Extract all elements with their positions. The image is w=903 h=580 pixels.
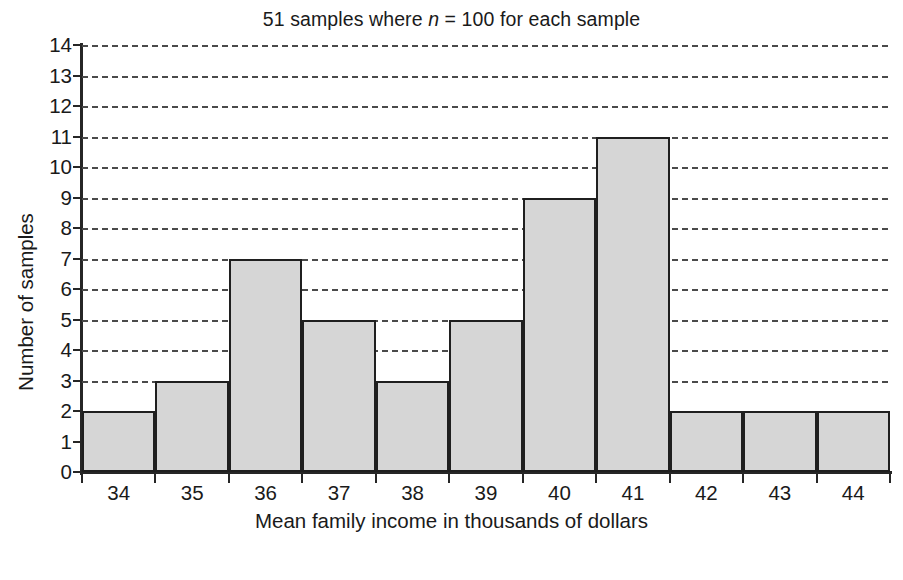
bar-38 xyxy=(376,381,449,473)
x-tick-2 xyxy=(228,473,230,483)
y-tick-label-0: 0 xyxy=(34,462,72,483)
chart-title-italic-n: n xyxy=(428,8,439,30)
x-tick-8 xyxy=(669,473,671,483)
x-tick-10 xyxy=(816,473,818,483)
gridline-y-6 xyxy=(82,289,888,291)
gridline-y-9 xyxy=(82,198,888,200)
y-tick-label-9: 9 xyxy=(34,188,72,209)
bar-41 xyxy=(596,137,669,473)
x-tick-6 xyxy=(522,473,524,483)
bar-37 xyxy=(302,320,375,473)
x-axis-title: Mean family income in thousands of dolla… xyxy=(0,509,903,533)
x-tick-1 xyxy=(154,473,156,483)
y-tick-14 xyxy=(73,44,82,46)
x-tick-label-34: 34 xyxy=(82,483,156,504)
y-tick-label-14: 14 xyxy=(34,35,72,56)
y-tick-label-8: 8 xyxy=(34,218,72,239)
y-tick-label-10: 10 xyxy=(34,157,72,178)
y-tick-11 xyxy=(73,136,82,138)
y-tick-label-4: 4 xyxy=(34,340,72,361)
y-tick-label-7: 7 xyxy=(34,249,72,270)
bar-34 xyxy=(82,411,155,472)
bar-35 xyxy=(155,381,228,473)
y-tick-label-6: 6 xyxy=(34,279,72,300)
x-tick-label-43: 43 xyxy=(743,483,817,504)
y-tick-8 xyxy=(73,227,82,229)
x-tick-9 xyxy=(742,473,744,483)
x-tick-label-36: 36 xyxy=(229,483,303,504)
y-tick-13 xyxy=(73,75,82,77)
chart-title: 51 samples where n = 100 for each sample xyxy=(0,8,903,31)
gridline-y-10 xyxy=(82,167,888,169)
y-tick-4 xyxy=(73,349,82,351)
plot-area xyxy=(82,45,890,472)
x-tick-label-37: 37 xyxy=(302,483,376,504)
x-tick-label-44: 44 xyxy=(816,483,890,504)
gridline-y-14 xyxy=(82,45,888,47)
bar-44 xyxy=(817,411,890,472)
x-tick-3 xyxy=(301,473,303,483)
gridline-y-8 xyxy=(82,228,888,230)
y-tick-5 xyxy=(73,319,82,321)
x-tick-5 xyxy=(448,473,450,483)
x-tick-label-38: 38 xyxy=(376,483,450,504)
x-tick-label-41: 41 xyxy=(596,483,670,504)
bar-42 xyxy=(670,411,743,472)
x-tick-label-42: 42 xyxy=(669,483,743,504)
bar-36 xyxy=(229,259,302,473)
bar-40 xyxy=(523,198,596,473)
chart-title-suffix: = 100 for each sample xyxy=(439,8,640,30)
x-tick-label-35: 35 xyxy=(155,483,229,504)
y-tick-label-12: 12 xyxy=(34,96,72,117)
bar-43 xyxy=(743,411,816,472)
y-axis-title: Number of samples xyxy=(14,142,38,462)
y-tick-1 xyxy=(73,441,82,443)
histogram-figure: 51 samples where n = 100 for each sample… xyxy=(0,0,903,580)
y-tick-label-11: 11 xyxy=(34,127,72,148)
y-tick-10 xyxy=(73,166,82,168)
x-tick-7 xyxy=(595,473,597,483)
x-tick-label-39: 39 xyxy=(449,483,523,504)
gridline-y-12 xyxy=(82,106,888,108)
gridline-y-13 xyxy=(82,76,888,78)
y-tick-label-5: 5 xyxy=(34,310,72,331)
gridline-y-11 xyxy=(82,137,888,139)
y-tick-3 xyxy=(73,380,82,382)
x-tick-11 xyxy=(889,473,891,483)
chart-title-prefix: 51 samples where xyxy=(263,8,428,30)
bar-39 xyxy=(449,320,522,473)
y-tick-2 xyxy=(73,410,82,412)
y-tick-12 xyxy=(73,105,82,107)
x-tick-label-40: 40 xyxy=(522,483,596,504)
y-tick-label-13: 13 xyxy=(34,66,72,87)
gridline-y-7 xyxy=(82,259,888,261)
y-tick-9 xyxy=(73,197,82,199)
y-tick-label-2: 2 xyxy=(34,401,72,422)
y-tick-7 xyxy=(73,258,82,260)
x-tick-0 xyxy=(81,473,83,483)
x-tick-4 xyxy=(375,473,377,483)
y-tick-label-1: 1 xyxy=(34,432,72,453)
y-tick-6 xyxy=(73,288,82,290)
y-tick-label-3: 3 xyxy=(34,371,72,392)
